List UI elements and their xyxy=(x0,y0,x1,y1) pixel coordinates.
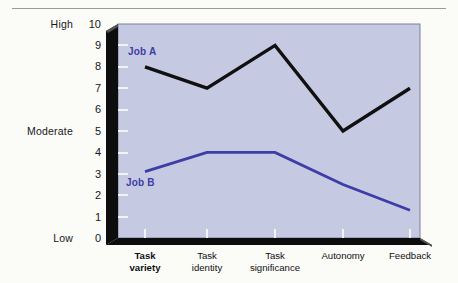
series-label-job-b: Job B xyxy=(126,177,155,188)
y-axis-slab xyxy=(106,24,118,245)
x-axis-slab xyxy=(106,238,432,245)
x-category-line1: Autonomy xyxy=(321,250,364,262)
x-category-line1: Task xyxy=(130,250,161,262)
x-category-task-identity: Task identity xyxy=(192,250,222,273)
plot-canvas xyxy=(0,0,458,283)
x-category-line1: Feedback xyxy=(389,250,431,262)
x-category-task-significance: Task significance xyxy=(250,250,300,273)
chart-figure: High Moderate Low 10 9 8 7 6 5 4 3 2 1 0 xyxy=(0,0,458,283)
x-category-feedback: Feedback xyxy=(389,250,431,262)
x-category-line2: variety xyxy=(130,262,161,274)
x-category-line1: Task xyxy=(192,250,222,262)
x-category-line1: Task xyxy=(250,250,300,262)
x-category-task-variety: Task variety xyxy=(130,250,161,273)
x-category-autonomy: Autonomy xyxy=(321,250,364,262)
x-category-line2: significance xyxy=(250,262,300,274)
x-category-line2: identity xyxy=(192,262,222,274)
series-label-job-a: Job A xyxy=(128,46,156,57)
plot-background-panel xyxy=(118,24,420,238)
